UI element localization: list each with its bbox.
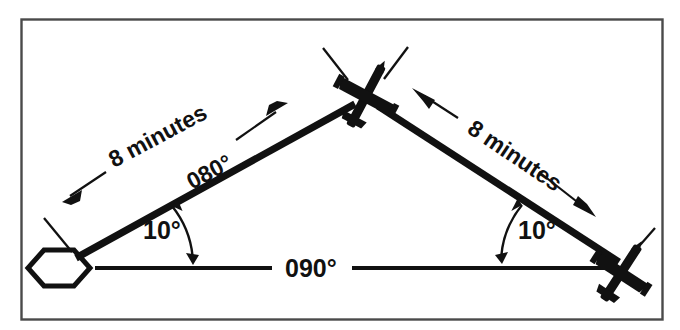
navigation-diagram: 10° 10° 090° 080° 8 minutes 8 minutes bbox=[0, 0, 680, 330]
figure-canvas: 10° 10° 090° 080° 8 minutes 8 minutes bbox=[0, 0, 680, 330]
right-angle-label: 10° bbox=[518, 216, 556, 244]
page-background bbox=[0, 0, 680, 330]
baseline-track-label: 090° bbox=[285, 254, 337, 282]
left-angle-label: 10° bbox=[143, 216, 181, 244]
